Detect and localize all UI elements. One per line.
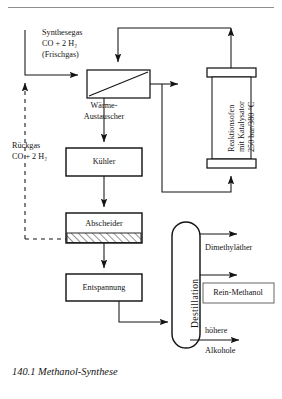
heat-exchanger-symbol (87, 70, 150, 98)
figure-caption: 140.1 Methanol-Synthese (12, 366, 118, 377)
figure-canvas: Synthesegas CO + 2 H₂ (Frischgas) Rückga… (0, 0, 282, 399)
expansion-to-distillation-line (119, 301, 168, 322)
higher-alcohols-label-line1: höhere (205, 326, 227, 336)
synthesis-gas-label-line3: (Frischgas) (42, 50, 79, 60)
reactor-label-line3: 250 bar/380 °C (247, 102, 257, 152)
recycle-gas-label-line2: CO + 2 H₂ (12, 152, 47, 162)
distillation-label: Destillation (190, 278, 200, 328)
pure-methanol-label: Rein-Methanol (203, 288, 274, 298)
reactor-to-hx-line (118, 28, 231, 68)
heat-exchanger-label-line1: Wärme- (64, 101, 144, 111)
expansion-label: Entspannung (66, 283, 142, 293)
higher-alcohols-label-line2: Alkohole (205, 346, 235, 356)
reactor-label-line1: Reaktionsofen (227, 105, 237, 152)
separator-label: Abscheider (66, 219, 142, 229)
heat-exchanger-label-line2: Austauscher (59, 112, 149, 122)
dimethyl-ether-label: Dimethyläther (205, 243, 252, 253)
synthesis-gas-label-line2: CO + 2 H₂ (42, 39, 77, 49)
recycle-gas-label-line1: Rückgas (12, 141, 40, 151)
cooler-label: Kühler (66, 157, 142, 167)
synthesis-gas-label-line1: Synthesegas (42, 28, 82, 38)
reactor-label-line2: mit Katalysator (237, 101, 247, 152)
